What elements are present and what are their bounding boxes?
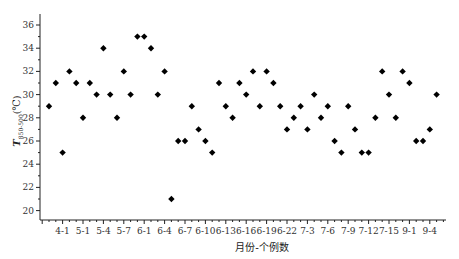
data-points bbox=[46, 33, 440, 202]
x-tick-label: 6-10 bbox=[195, 226, 215, 236]
data-point-diamond-icon bbox=[257, 103, 263, 109]
data-point-diamond-icon bbox=[189, 103, 195, 109]
data-point-diamond-icon bbox=[66, 68, 72, 74]
x-tick-label: 6-16 bbox=[236, 226, 256, 236]
data-point-diamond-icon bbox=[127, 91, 133, 97]
data-point-diamond-icon bbox=[155, 91, 161, 97]
x-tick-label: 6-7 bbox=[178, 226, 193, 236]
data-point-diamond-icon bbox=[433, 91, 439, 97]
data-point-diamond-icon bbox=[80, 115, 86, 121]
data-point-diamond-icon bbox=[420, 138, 426, 144]
data-point-diamond-icon bbox=[114, 115, 120, 121]
x-tick-label: 7-12 bbox=[358, 226, 378, 236]
x-tick-label: 6-13 bbox=[216, 226, 236, 236]
data-point-diamond-icon bbox=[304, 126, 310, 132]
y-tick-label: 20 bbox=[23, 206, 35, 216]
x-tick-label: 6-1 bbox=[137, 226, 152, 236]
data-point-diamond-icon bbox=[284, 126, 290, 132]
data-point-diamond-icon bbox=[107, 91, 113, 97]
data-point-diamond-icon bbox=[331, 138, 337, 144]
y-tick-label: 34 bbox=[23, 43, 35, 53]
data-point-diamond-icon bbox=[46, 103, 52, 109]
x-tick-label: 5-4 bbox=[96, 226, 111, 236]
y-axis: 202224262830323436 bbox=[23, 14, 40, 220]
x-tick-label: 5-7 bbox=[117, 226, 132, 236]
data-point-diamond-icon bbox=[413, 138, 419, 144]
data-point-diamond-icon bbox=[345, 103, 351, 109]
x-tick-label: 9-1 bbox=[402, 226, 417, 236]
x-tick-label: 7-3 bbox=[300, 226, 315, 236]
y-tick-label: 22 bbox=[23, 182, 34, 192]
y-tick-label: 26 bbox=[23, 136, 35, 146]
data-point-diamond-icon bbox=[406, 80, 412, 86]
data-point-diamond-icon bbox=[359, 149, 365, 155]
data-point-diamond-icon bbox=[297, 103, 303, 109]
data-point-diamond-icon bbox=[399, 68, 405, 74]
data-point-diamond-icon bbox=[250, 68, 256, 74]
data-point-diamond-icon bbox=[393, 115, 399, 121]
y-tick-label: 30 bbox=[23, 90, 35, 100]
scatter-chart: 202224262830323436 4-15-15-45-76-16-46-7… bbox=[0, 0, 459, 259]
x-tick-label: 4-1 bbox=[55, 226, 70, 236]
data-point-diamond-icon bbox=[386, 91, 392, 97]
data-point-diamond-icon bbox=[216, 80, 222, 86]
data-point-diamond-icon bbox=[229, 115, 235, 121]
data-point-diamond-icon bbox=[291, 115, 297, 121]
x-axis: 4-15-15-45-76-16-46-76-106-136-166-196-2… bbox=[40, 220, 446, 236]
data-point-diamond-icon bbox=[243, 91, 249, 97]
data-point-diamond-icon bbox=[141, 33, 147, 39]
data-point-diamond-icon bbox=[182, 138, 188, 144]
data-point-diamond-icon bbox=[263, 68, 269, 74]
x-tick-label: 7-6 bbox=[321, 226, 336, 236]
y-axis-title: T850-500(℃) bbox=[11, 95, 24, 146]
data-point-diamond-icon bbox=[372, 115, 378, 121]
data-point-diamond-icon bbox=[277, 103, 283, 109]
data-point-diamond-icon bbox=[161, 68, 167, 74]
data-point-diamond-icon bbox=[100, 45, 106, 51]
x-tick-label: 7-9 bbox=[341, 226, 356, 236]
data-point-diamond-icon bbox=[427, 126, 433, 132]
x-tick-label: 5-1 bbox=[76, 226, 91, 236]
x-tick-label: 6-19 bbox=[256, 226, 276, 236]
data-point-diamond-icon bbox=[59, 149, 65, 155]
y-tick-label: 24 bbox=[23, 159, 35, 169]
data-point-diamond-icon bbox=[121, 68, 127, 74]
data-point-diamond-icon bbox=[175, 138, 181, 144]
data-point-diamond-icon bbox=[365, 149, 371, 155]
data-point-diamond-icon bbox=[223, 103, 229, 109]
y-axis-title-subscript: 850-500 bbox=[17, 114, 24, 139]
data-point-diamond-icon bbox=[270, 80, 276, 86]
x-tick-label: 9-4 bbox=[423, 226, 438, 236]
data-point-diamond-icon bbox=[236, 80, 242, 86]
data-point-diamond-icon bbox=[134, 33, 140, 39]
y-tick-label: 36 bbox=[23, 20, 35, 30]
data-point-diamond-icon bbox=[379, 68, 385, 74]
x-tick-label: 6-22 bbox=[277, 226, 297, 236]
data-point-diamond-icon bbox=[53, 80, 59, 86]
x-tick-label: 6-4 bbox=[157, 226, 172, 236]
data-point-diamond-icon bbox=[87, 80, 93, 86]
data-point-diamond-icon bbox=[93, 91, 99, 97]
data-point-diamond-icon bbox=[325, 103, 331, 109]
data-point-diamond-icon bbox=[318, 115, 324, 121]
data-point-diamond-icon bbox=[311, 91, 317, 97]
y-tick-label: 28 bbox=[23, 113, 35, 123]
data-point-diamond-icon bbox=[352, 126, 358, 132]
x-axis-title: 月份-个例数 bbox=[235, 241, 289, 253]
y-axis-title-unit: (℃) bbox=[11, 95, 22, 114]
y-tick-label: 32 bbox=[23, 66, 34, 76]
data-point-diamond-icon bbox=[202, 138, 208, 144]
data-point-diamond-icon bbox=[168, 196, 174, 202]
data-point-diamond-icon bbox=[195, 126, 201, 132]
data-point-diamond-icon bbox=[148, 45, 154, 51]
data-point-diamond-icon bbox=[73, 80, 79, 86]
x-tick-label: 7-15 bbox=[379, 226, 399, 236]
data-point-diamond-icon bbox=[338, 149, 344, 155]
data-point-diamond-icon bbox=[209, 149, 215, 155]
